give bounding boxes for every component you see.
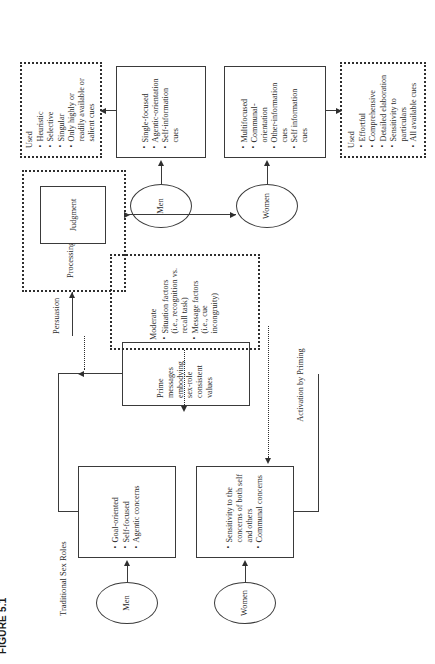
node-women-source-label: Women [241, 590, 249, 616]
node-men-cues[interactable]: Single-focused Agentic-orientation Self-… [116, 66, 206, 158]
connector-men-traits-top [58, 511, 78, 512]
connector-priming-to-women-traits [268, 326, 269, 458]
men-traits-list: Goal-oriented Self-focused Agentic conce… [111, 473, 142, 549]
women-processing-style-item: All available cues [409, 72, 419, 148]
connector-women-traits-to-prime [318, 374, 319, 512]
connector-men-oval-to-cues [161, 166, 162, 184]
men-processing-style-item: Singular [57, 72, 67, 148]
node-men-outcome[interactable]: Men [130, 184, 192, 228]
men-cue-item: Single-focused [141, 73, 151, 149]
men-trait-item: Self-focused [122, 473, 132, 549]
connector-men-traits-to-prime [58, 374, 59, 512]
node-women-outcome[interactable]: Women [236, 184, 298, 228]
connector-men-source-to-traits [127, 566, 128, 582]
node-men-source-label: Men [123, 595, 131, 610]
men-processing-style-item: Heuristic [36, 72, 46, 148]
moderator-item: Situation factors (i.e., recognition vs.… [161, 264, 191, 340]
node-prime-messages[interactable]: Prime messages embodying sex-role consis… [122, 342, 250, 406]
arrowhead-men-cues-to-style [100, 109, 106, 115]
women-cue-item: Multifocused [240, 73, 250, 149]
arrowhead-prime-to-judgment [78, 372, 84, 378]
women-trait-item: Sensitivity to the concerns of both self… [225, 473, 255, 549]
node-women-processing-style[interactable]: Used Effortful Comprehensive Detailed el… [340, 62, 426, 158]
figure-rotation-stage: Traditional Sex Roles Men Women Goal-ori… [0, 0, 435, 664]
women-cue-item: Other-information cues [270, 73, 290, 149]
connector-prime-to-persuasion [84, 373, 122, 374]
men-processing-style-title: Used [25, 72, 35, 148]
moderators-title: Moderate [149, 264, 159, 340]
women-processing-style-item: Sensitivity to particulars [389, 72, 409, 148]
figure-caption: FIGURE 5.1 [0, 598, 8, 654]
node-women-cues[interactable]: Multifocused Communal-orientation Other-… [224, 66, 326, 158]
moderator-item: Message factors (i.e., cue incongruity) [191, 264, 221, 340]
connector-women-traits-bottom [294, 511, 318, 512]
traditional-sex-roles-label: Traditional Sex Roles [58, 541, 68, 616]
women-processing-style-item: Detailed elaboration [379, 72, 389, 148]
connector-moderators-to-prime [184, 350, 185, 406]
men-cue-item: Agentic-orientation [151, 73, 161, 149]
persuasion-label: Persuasion [52, 298, 62, 334]
arrowhead-women-cues-to-style [336, 109, 342, 115]
connector-persuasion-dotted [84, 336, 85, 370]
women-processing-style-title: Used [347, 72, 357, 148]
men-cues-list: Single-focused Agentic-orientation Self-… [141, 73, 182, 149]
women-traits-list: Sensitivity to the concerns of both self… [225, 473, 265, 549]
arrowhead-processing-to-women-oval [230, 213, 236, 219]
diagram-canvas: Traditional Sex Roles Men Women Goal-ori… [0, 0, 435, 664]
prime-messages-text: Prime messages embodying sex-role consis… [156, 350, 214, 398]
node-men-processing-style[interactable]: Used Heuristic Selective Singular Only h… [20, 62, 102, 158]
node-women-traits[interactable]: Sensitivity to the concerns of both self… [196, 466, 294, 558]
men-processing-style-list: Heuristic Selective Singular Only highly… [36, 72, 97, 148]
node-men-source[interactable]: Men [96, 582, 158, 624]
node-men-outcome-label: Men [157, 198, 165, 213]
arrowhead-men-source-to-traits [124, 560, 130, 566]
arrowhead-priming-to-women-traits [265, 458, 271, 464]
connector-women-source-to-traits [245, 566, 246, 582]
processing-label: Processing [66, 242, 76, 278]
arrowhead-men-oval-to-cues [158, 160, 164, 166]
men-processing-style-item: Selective [46, 72, 56, 148]
men-trait-item: Agentic concerns [132, 473, 142, 549]
node-judgment[interactable]: Judgment [40, 186, 106, 244]
women-cue-item: Communal-orientation [250, 73, 270, 149]
connector-women-oval-to-cues [267, 166, 268, 184]
node-women-outcome-label: Women [263, 193, 271, 219]
arrowhead-moderators-to-prime [181, 406, 187, 412]
women-processing-style-item: Comprehensive [368, 72, 378, 148]
activation-by-priming-label: Activation by Priming [296, 342, 306, 428]
men-processing-style-item: Only highly or readily available or sali… [67, 72, 97, 148]
arrowhead-women-oval-to-cues [264, 160, 270, 166]
connector-persuasion-to-processing [72, 292, 73, 336]
women-cues-list: Multifocused Communal-orientation Other-… [240, 73, 311, 149]
arrowhead-persuasion-to-processing [69, 292, 75, 298]
women-cue-item: Self information cues [290, 73, 310, 149]
node-men-traits[interactable]: Goal-oriented Self-focused Agentic conce… [78, 466, 176, 558]
women-trait-item: Communal concerns [255, 473, 265, 549]
node-moderators[interactable]: Moderate Situation factors (i.e., recogn… [110, 254, 260, 350]
node-women-source[interactable]: Women [214, 582, 276, 624]
arrowhead-women-source-to-traits [242, 560, 248, 566]
judgment-label: Judgment [69, 199, 78, 232]
men-cue-item: Self-information cues [161, 73, 181, 149]
men-trait-item: Goal-oriented [111, 473, 121, 549]
women-processing-style-item: Effortful [358, 72, 368, 148]
connector-processing-to-women-oval [126, 214, 236, 215]
moderators-list: Situation factors (i.e., recognition vs.… [161, 264, 221, 340]
women-processing-style-list: Effortful Comprehensive Detailed elabora… [358, 72, 420, 148]
connector-men-cues-to-style [106, 110, 116, 111]
